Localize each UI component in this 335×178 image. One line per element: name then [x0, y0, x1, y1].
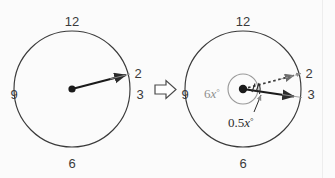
- right-clock-number-6: 6: [239, 156, 246, 171]
- inner-angle-number: 0.5: [228, 115, 244, 130]
- inner-angle-degree: °: [250, 116, 254, 126]
- implies-arrow-icon: [155, 81, 176, 99]
- figure-canvas: 12 3 6 9 2: [0, 0, 335, 178]
- right-clock-center-dot: [239, 85, 247, 93]
- right-clock-number-12: 12: [236, 14, 250, 29]
- right-clock-group: 12 3 6 9 2 6x° 0.5x°: [181, 14, 314, 171]
- left-clock-number-2: 2: [134, 66, 141, 81]
- right-clock-number-2: 2: [305, 66, 312, 81]
- left-clock-group: 12 3 6 9 2: [10, 14, 143, 171]
- left-clock-number-12: 12: [65, 14, 79, 29]
- outer-angle-degree: °: [216, 87, 220, 97]
- clock-angle-figure: 12 3 6 9 2: [0, 0, 335, 178]
- right-clock-number-3: 3: [307, 87, 314, 102]
- left-clock-number-6: 6: [68, 156, 75, 171]
- inner-angle-arc: [260, 85, 261, 95]
- left-hand-ghost: [110, 74, 130, 79]
- outer-angle-label: 6x°: [204, 86, 220, 101]
- inner-angle-label: 0.5x°: [228, 115, 254, 130]
- right-clock-number-9: 9: [181, 87, 188, 102]
- left-clock-number-3: 3: [136, 87, 143, 102]
- left-clock-number-9: 9: [10, 87, 17, 102]
- implies-arrow-group: [155, 81, 176, 99]
- right-edge-rule: [322, 0, 323, 178]
